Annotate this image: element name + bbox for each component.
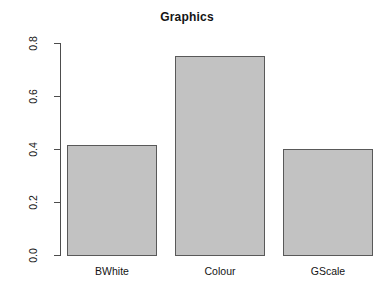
bar [175,56,265,256]
bar-chart: Graphics Mean error rate 0.00.20.40.60.8… [0,0,374,290]
x-axis-category-label: BWhite [67,264,157,278]
y-axis-tick [54,202,61,203]
y-axis-tick-label: 0.6 [27,80,40,114]
chart-title: Graphics [0,10,374,24]
y-axis-tick [54,255,61,256]
y-axis-tick [54,96,61,97]
y-axis-tick-label: 0.0 [27,239,40,273]
x-axis-category-label: GScale [283,264,373,278]
y-axis-tick-label: 0.2 [27,186,40,220]
bar [283,149,373,256]
x-axis-category-label: Colour [175,264,265,278]
bar [67,145,157,256]
y-axis-tick-label: 0.8 [27,27,40,61]
y-axis-tick [54,149,61,150]
y-axis-tick-label: 0.4 [27,133,40,167]
y-axis-tick [54,43,61,44]
